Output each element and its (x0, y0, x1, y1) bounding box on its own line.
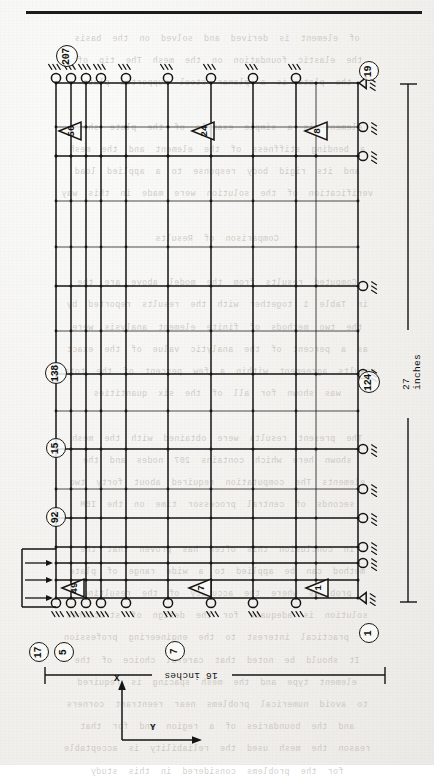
element-label-e7: 7 (196, 585, 207, 591)
mesh-node-dot (85, 488, 88, 491)
mesh-node-dot (100, 155, 103, 158)
mesh-node-dot (252, 330, 255, 333)
node-label-text: 5 (58, 649, 69, 655)
vertical-dimension-label: 27 inches (401, 354, 423, 390)
mesh-node-dot (315, 373, 318, 376)
roller-support-icon (248, 73, 257, 82)
mesh-node-dot (210, 200, 213, 203)
mesh-node-dot (85, 285, 88, 288)
mesh-node-dot (252, 285, 255, 288)
mesh-node-dot (70, 285, 73, 288)
element-label-text: 56 (66, 125, 77, 136)
support-hatching (67, 612, 70, 617)
support-hatching (372, 286, 377, 289)
roller-support-icon (81, 73, 90, 82)
support-hatching (296, 612, 299, 617)
bleed-through-line: for the problems considered in this stud… (0, 763, 434, 780)
roller-support-icon (51, 598, 60, 607)
horizontal-dimension-label: 16 inches (164, 670, 218, 681)
node-label-n5: 5 (54, 642, 74, 662)
mesh-node-dot (295, 155, 298, 158)
support-hatching (172, 612, 175, 617)
mesh-node-dot (252, 488, 255, 491)
roller-support-icon (66, 73, 75, 82)
support-hatching (123, 64, 126, 69)
mesh-node-dot (167, 200, 170, 203)
node-label-text: 7 (169, 648, 180, 654)
mesh-node-dot (125, 546, 128, 549)
support-hatching (249, 612, 252, 617)
mesh-node-dot (70, 517, 73, 520)
mesh-node-dot (125, 517, 128, 520)
node-label-n124: 124 (358, 371, 380, 393)
axis-label-x: X (114, 673, 120, 684)
support-hatching (372, 567, 377, 570)
support-hatching (372, 518, 377, 521)
mesh-node-dot (100, 285, 103, 288)
roller-support-icon (121, 598, 130, 607)
mesh-node-dot (70, 373, 73, 376)
mesh-node-dot (252, 246, 255, 249)
support-hatching (94, 64, 97, 69)
node-label-n7: 7 (165, 641, 185, 661)
node-label-text: 1 (363, 630, 374, 636)
roller-support-icon (358, 484, 367, 493)
mesh-node-dot (100, 373, 103, 376)
mesh-node-dot (167, 488, 170, 491)
mesh-node-dot (55, 410, 58, 413)
mesh-node-dot (295, 373, 298, 376)
mesh-node-dot (210, 546, 213, 549)
mesh-node-dot (210, 488, 213, 491)
mesh-node-dot (100, 126, 103, 129)
mesh-node-dot (210, 517, 213, 520)
load-arrow-head (46, 577, 53, 583)
mesh-node-dot (55, 562, 58, 565)
mesh-node-dot (125, 330, 128, 333)
roller-support-icon (206, 598, 215, 607)
node-label-n92: 92 (46, 507, 66, 527)
boundary-supports (49, 64, 377, 616)
roller-support-icon (206, 73, 215, 82)
support-hatching (212, 64, 215, 69)
mesh-node-dot (70, 155, 73, 158)
roller-support-icon (163, 598, 172, 607)
mesh-node-dot (295, 410, 298, 413)
support-hatching (250, 64, 253, 69)
support-hatching (372, 156, 377, 159)
element-label-text: 8 (312, 128, 323, 134)
mesh-node-dot (100, 488, 103, 491)
mesh-node-dot (210, 448, 213, 451)
support-hatching (372, 127, 377, 130)
mesh-node-dot (55, 488, 58, 491)
support-hatching (161, 64, 164, 69)
mesh-node-dot (210, 410, 213, 413)
support-hatching (215, 612, 218, 617)
mesh-node-dot (167, 546, 170, 549)
mesh-node-dot (70, 330, 73, 333)
support-hatching (372, 131, 377, 134)
mesh-node-dot (125, 373, 128, 376)
mesh-node-dot (167, 285, 170, 288)
edge-load-arrows (22, 549, 56, 607)
mesh-node-dot (85, 155, 88, 158)
support-hatching (370, 87, 375, 90)
support-hatching (372, 453, 377, 456)
mesh-node-dot (55, 246, 58, 249)
mesh-node-dot (55, 155, 58, 158)
mesh-node-dot (55, 285, 58, 288)
mesh-node-dot (210, 562, 213, 565)
mesh-node-dot (70, 562, 73, 565)
mesh-node-dot (100, 579, 103, 582)
mesh-node-dot (100, 200, 103, 203)
mesh-node-dot (70, 488, 73, 491)
mesh-node-dot (85, 126, 88, 129)
support-hatching (168, 612, 171, 617)
support-hatching (57, 64, 60, 69)
mesh-node-dot (357, 246, 360, 249)
support-hatching (97, 612, 100, 617)
support-hatching (372, 543, 377, 546)
element-label-text: 7 (196, 585, 207, 591)
coordinate-axes (118, 680, 202, 744)
mesh-node-dot (315, 155, 318, 158)
mesh-node-dot (55, 546, 58, 549)
